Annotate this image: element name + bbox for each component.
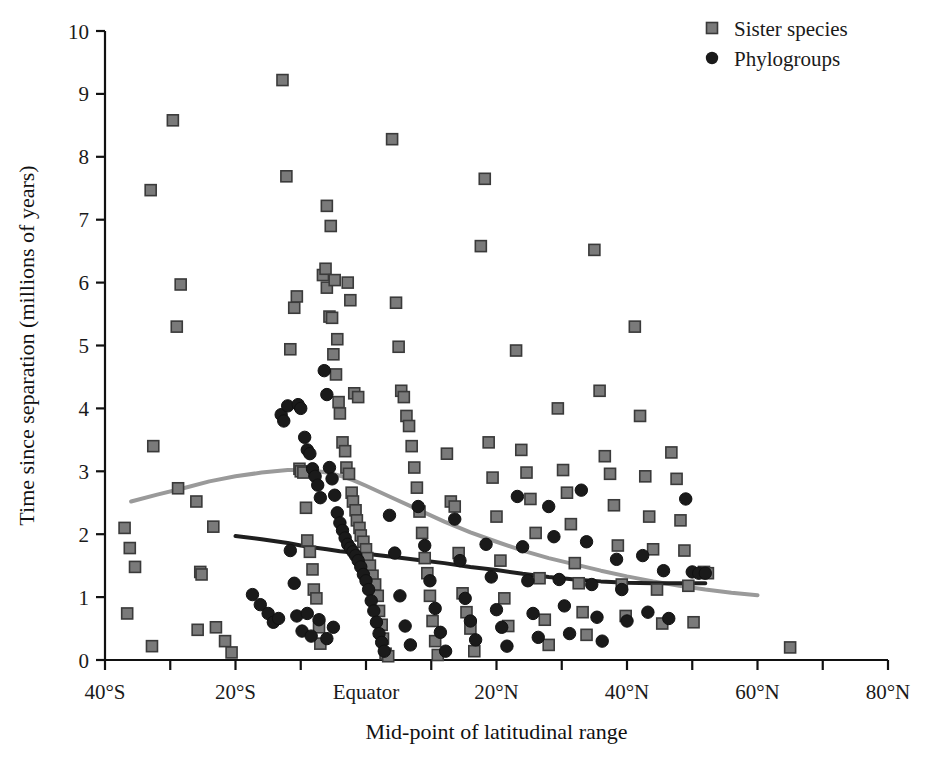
marker-square (543, 639, 554, 650)
marker-square (573, 578, 584, 589)
marker-square (449, 501, 460, 512)
marker-circle (318, 364, 330, 376)
marker-circle (480, 538, 492, 550)
marker-square (173, 483, 184, 494)
marker-square (208, 521, 219, 532)
marker-circle (586, 578, 598, 590)
marker-square (577, 607, 588, 618)
marker-square (565, 519, 576, 530)
marker-square (119, 522, 130, 533)
marker-square (683, 580, 694, 591)
marker-square (594, 385, 605, 396)
marker-square (599, 451, 610, 462)
marker-square (427, 616, 438, 627)
marker-square (581, 629, 592, 640)
marker-square (148, 441, 159, 452)
marker-square (302, 535, 313, 546)
marker-circle (313, 614, 325, 626)
marker-circle (327, 621, 339, 633)
marker-square (530, 527, 541, 538)
marker-square (629, 321, 640, 332)
marker-square (330, 369, 341, 380)
marker-circle (301, 607, 313, 619)
marker-square (561, 487, 572, 498)
marker-square (671, 473, 682, 484)
marker-square (192, 624, 203, 635)
marker-square (648, 544, 659, 555)
marker-circle (522, 575, 534, 587)
marker-square (277, 75, 288, 86)
marker-circle (295, 402, 307, 414)
marker-square (534, 573, 545, 584)
marker-circle (636, 549, 648, 561)
marker-circle (596, 635, 608, 647)
marker-circle (389, 547, 401, 559)
marker-square (321, 200, 332, 211)
marker-square (304, 546, 315, 557)
marker-square (675, 515, 686, 526)
marker-circle (370, 616, 382, 628)
x-tick-label: 20°S (215, 680, 256, 704)
y-tick-label: 6 (79, 271, 90, 295)
y-tick-label: 5 (79, 334, 90, 358)
marker-square (608, 500, 619, 511)
marker-square (391, 297, 402, 308)
marker-square (469, 646, 480, 657)
marker-square (644, 511, 655, 522)
marker-circle (272, 612, 284, 624)
marker-circle (580, 536, 592, 548)
marker-square (487, 472, 498, 483)
marker-square (612, 540, 623, 551)
marker-square (333, 397, 344, 408)
marker-circle (575, 484, 587, 496)
marker-square (688, 617, 699, 628)
marker-circle (657, 564, 669, 576)
marker-square (320, 263, 331, 274)
marker-square (342, 277, 353, 288)
marker-square (334, 408, 345, 419)
marker-circle (663, 612, 675, 624)
legend-label: Sister species (734, 17, 848, 41)
marker-circle (621, 615, 633, 627)
marker-square (307, 564, 318, 575)
marker-circle (314, 492, 326, 504)
marker-circle (511, 490, 523, 502)
x-tick-label: Equator (333, 680, 399, 704)
marker-circle (328, 489, 340, 501)
marker-circle (680, 493, 692, 505)
marker-circle (404, 639, 416, 651)
marker-square (511, 345, 522, 356)
marker-square (539, 614, 550, 625)
marker-circle (563, 627, 575, 639)
marker-square (475, 241, 486, 252)
y-tick-label: 3 (79, 460, 90, 484)
marker-square (325, 220, 336, 231)
marker-square (124, 543, 135, 554)
marker-circle (454, 554, 466, 566)
marker-circle (429, 602, 441, 614)
marker-square (409, 462, 420, 473)
marker-square (679, 545, 690, 556)
marker-circle (419, 539, 431, 551)
y-tick-label: 7 (79, 208, 90, 232)
marker-circle (527, 607, 539, 619)
marker-square (495, 555, 506, 566)
marker-square (167, 115, 178, 126)
marker-square (340, 446, 351, 457)
marker-square (146, 641, 157, 652)
marker-square (291, 291, 302, 302)
marker-circle (434, 626, 446, 638)
marker-circle (298, 431, 310, 443)
marker-circle (378, 645, 390, 657)
marker-square (479, 173, 490, 184)
marker-circle (304, 447, 316, 459)
marker-circle (459, 592, 471, 604)
marker-square (419, 553, 430, 564)
marker-circle (323, 461, 335, 473)
y-tick-label: 4 (79, 397, 90, 421)
x-tick-label: 60°N (735, 680, 780, 704)
marker-square (332, 334, 343, 345)
marker-square (171, 321, 182, 332)
marker-circle (485, 571, 497, 583)
marker-circle (543, 500, 555, 512)
